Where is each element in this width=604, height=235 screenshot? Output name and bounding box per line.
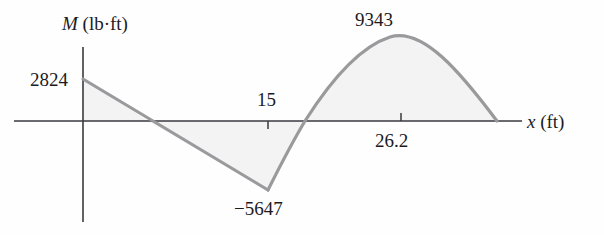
x-axis-title-unit: (ft)	[540, 111, 564, 132]
x-axis-title: x (ft)	[527, 112, 564, 131]
bending-moment-diagram: M (lb·ft) x (ft) 2824 9343 −5647 15 26.2	[0, 0, 604, 235]
value-label-start: 2824	[30, 70, 68, 89]
y-axis-title: M (lb·ft)	[62, 14, 128, 33]
moment-diagram-plot	[0, 0, 604, 235]
positive-lobe-fill	[305, 36, 497, 121]
x-tick-label-15: 15	[257, 90, 276, 109]
y-axis-title-unit: (lb·ft)	[83, 13, 128, 34]
value-label-peak: 9343	[355, 10, 393, 29]
y-axis-title-variable: M	[62, 13, 78, 34]
x-axis-title-variable: x	[527, 111, 535, 132]
value-label-minimum: −5647	[234, 199, 283, 218]
x-tick-label-26-2: 26.2	[375, 131, 408, 150]
